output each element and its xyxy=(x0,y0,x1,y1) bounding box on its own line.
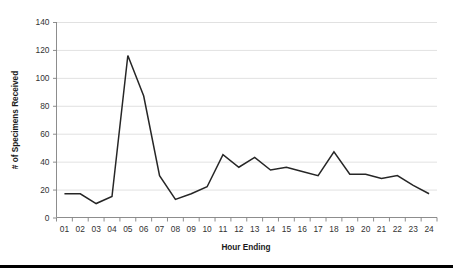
x-tick-label: 15 xyxy=(282,224,292,234)
x-tick-label: 01 xyxy=(60,224,70,234)
x-tick-label: 09 xyxy=(187,224,197,234)
data-series-line xyxy=(64,56,429,204)
x-tick-label: 07 xyxy=(155,224,165,234)
y-tick-label: 100 xyxy=(36,73,50,83)
x-tick-label: 19 xyxy=(345,224,355,234)
x-tick-label: 05 xyxy=(123,224,133,234)
chart-figure: 020406080100120140 010203040506070809101… xyxy=(0,0,453,279)
x-axis-ticks-group: 0102030405060708091011121314151617181920… xyxy=(57,218,438,235)
x-tick-label: 11 xyxy=(219,224,228,234)
x-tick-label: 17 xyxy=(313,224,323,234)
line-chart: 020406080100120140 010203040506070809101… xyxy=(0,0,453,265)
x-tick-label: 12 xyxy=(234,224,244,234)
x-tick-label: 13 xyxy=(250,224,260,234)
x-tick-label: 23 xyxy=(409,224,419,234)
x-tick-label: 03 xyxy=(91,224,101,234)
bottom-rule-divider xyxy=(0,265,453,268)
y-tick-label: 40 xyxy=(40,157,50,167)
x-tick-label: 18 xyxy=(329,224,339,234)
x-tick-label: 22 xyxy=(393,224,403,234)
gridlines-group xyxy=(57,23,438,191)
x-tick-label: 14 xyxy=(266,224,276,234)
y-tick-label: 80 xyxy=(40,101,50,111)
y-tick-label: 0 xyxy=(45,213,50,223)
y-tick-label: 120 xyxy=(36,45,50,55)
x-tick-label: 21 xyxy=(377,224,387,234)
y-axis-ticks-group: 020406080100120140 xyxy=(36,17,57,223)
x-tick-label: 06 xyxy=(139,224,149,234)
y-tick-label: 60 xyxy=(40,129,50,139)
x-tick-label: 20 xyxy=(361,224,371,234)
x-tick-label: 08 xyxy=(171,224,181,234)
x-tick-label: 24 xyxy=(424,224,434,234)
x-tick-label: 04 xyxy=(107,224,117,234)
y-tick-label: 140 xyxy=(36,17,50,27)
x-tick-label: 16 xyxy=(298,224,308,234)
y-axis-title: # of Specimens Received xyxy=(11,71,20,169)
y-tick-label: 20 xyxy=(40,185,50,195)
x-axis-title: Hour Ending xyxy=(221,243,270,252)
x-tick-label: 10 xyxy=(202,224,212,234)
x-tick-label: 02 xyxy=(76,224,86,234)
